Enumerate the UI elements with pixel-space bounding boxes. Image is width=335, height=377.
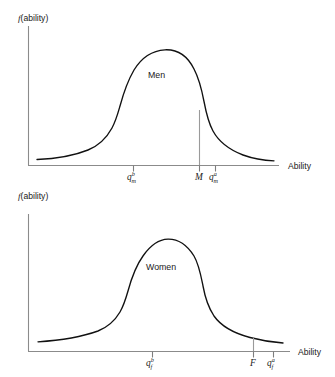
men-tick-label-q-a: qam (209, 173, 218, 182)
chart-panel-women: f(ability) Women Ability qbf F qaf (0, 188, 335, 377)
women-plot-svg (0, 188, 335, 377)
women-x-axis-label: Ability (298, 348, 321, 357)
men-tick-label-q-a-sub: m (214, 177, 218, 184)
women-tick-label-q-a-sup: a (272, 356, 275, 363)
chart-panel-men: f(ability) Men Ability qbm M qam (0, 0, 335, 189)
men-marker-label-M: M (195, 173, 203, 182)
figure-container: f(ability) Men Ability qbm M qam (0, 0, 335, 377)
men-density-curve (37, 50, 274, 161)
women-tick-label-q-b-sup: b (151, 356, 154, 363)
men-tick-label-q-a-sup: a (214, 170, 217, 177)
men-y-axis-label: f(ability) (18, 14, 48, 23)
women-y-axis-label: f(ability) (18, 192, 48, 201)
men-tick-label-q-b-sup: b (132, 170, 135, 177)
women-y-axis-label-rest: (ability) (21, 191, 49, 201)
women-density-curve (38, 239, 283, 343)
men-tick-label-q-b-sub: m (132, 177, 136, 184)
men-x-axis-label: Ability (288, 162, 311, 171)
women-marker-label-F: F (250, 359, 256, 368)
women-series-label: Women (146, 263, 176, 272)
men-tick-label-q-b: qbm (127, 173, 136, 182)
men-plot-svg (0, 0, 335, 189)
men-y-axis-label-rest: (ability) (21, 13, 49, 23)
women-tick-label-q-a: qaf (267, 359, 273, 368)
women-tick-label-q-b: qbf (146, 359, 152, 368)
men-series-label: Men (148, 71, 165, 80)
